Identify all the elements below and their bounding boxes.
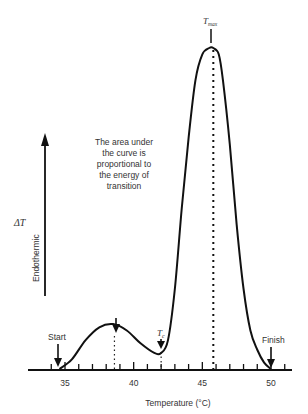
annotation-line: transition: [107, 181, 142, 191]
x-tick-label: 40: [129, 378, 139, 388]
dsc-diagram: ΔT Endothermic The area under the curve …: [0, 0, 308, 414]
annotation-line: the energy of: [99, 170, 149, 180]
x-axis-ticks: [51, 362, 284, 370]
annotation-line: proportional to: [97, 159, 152, 169]
x-tick-label: 35: [60, 378, 70, 388]
annotation-line: The area under: [95, 137, 153, 147]
pre-transition-marker: [112, 318, 120, 333]
x-tick-label: 45: [198, 378, 208, 388]
x-axis-label: Temperature (°C): [145, 398, 210, 408]
endothermic-label: Endothermic: [31, 234, 41, 282]
tc-label: Tc: [157, 328, 165, 339]
area-annotation: The area under the curve is proportional…: [95, 137, 153, 191]
tmax-marker: Tmax: [203, 16, 218, 43]
finish-label: Finish: [262, 335, 285, 345]
endothermic-arrow: [41, 133, 49, 296]
tc-marker: Tc: [157, 328, 165, 349]
start-marker: Start: [48, 332, 67, 367]
start-label: Start: [48, 332, 67, 342]
tmax-label: Tmax: [203, 16, 218, 27]
delta-t-label: ΔT: [13, 217, 27, 228]
dsc-curve: [60, 47, 271, 369]
annotation-line: the curve is: [102, 148, 145, 158]
tc-label-sub: c: [162, 333, 165, 339]
tmax-label-sub: max: [208, 21, 218, 27]
x-tick-label: 50: [266, 378, 276, 388]
x-axis-tick-labels: 35404550: [60, 378, 276, 388]
